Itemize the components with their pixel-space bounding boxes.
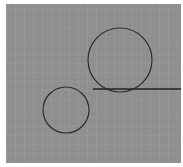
large-circle[interactable] xyxy=(88,28,152,92)
small-circle[interactable] xyxy=(43,87,89,133)
shapes-layer xyxy=(0,0,183,167)
